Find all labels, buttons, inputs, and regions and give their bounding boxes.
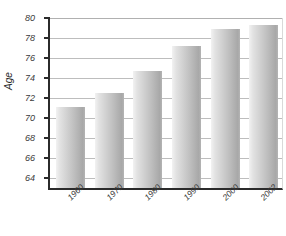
y-axis-tick: [44, 117, 50, 119]
y-axis-tick-label: 80: [25, 14, 35, 23]
y-axis-tick: [44, 157, 50, 159]
gridline: [50, 18, 282, 19]
gridline: [50, 38, 282, 39]
y-axis-tick-label: 76: [25, 54, 35, 63]
y-axis-tick: [44, 97, 50, 99]
y-axis-tick-label: 64: [25, 174, 35, 183]
y-axis-title: Age: [4, 72, 14, 90]
y-axis-tick: [44, 77, 50, 79]
gridline: [50, 58, 282, 59]
bar: [133, 71, 162, 188]
bar: [95, 93, 124, 188]
bar: [172, 46, 201, 188]
gridline: [50, 98, 282, 99]
y-axis-tick-label: 74: [25, 74, 35, 83]
y-axis-tick: [44, 57, 50, 59]
y-axis-tick-label: 66: [25, 154, 35, 163]
y-axis-tick-label: 70: [25, 114, 35, 123]
y-axis-tick: [44, 137, 50, 139]
bar: [249, 25, 278, 188]
y-axis-tick: [44, 17, 50, 19]
y-axis-tick-label: 72: [25, 94, 35, 103]
plot-area: 646668707274767880: [48, 18, 283, 190]
bar: [211, 29, 240, 188]
gridline: [50, 78, 282, 79]
bar: [56, 107, 85, 188]
y-axis-tick-label: 68: [25, 134, 35, 143]
y-axis-tick-label: 78: [25, 34, 35, 43]
y-axis-tick: [44, 37, 50, 39]
bar-chart: Age 646668707274767880 19601970198019902…: [0, 0, 286, 236]
y-axis-tick: [44, 177, 50, 179]
